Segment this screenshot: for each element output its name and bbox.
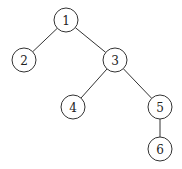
tree-diagram: 123456	[0, 0, 182, 169]
node-label: 4	[69, 101, 77, 115]
tree-node-3: 3	[103, 48, 127, 72]
tree-node-5: 5	[148, 95, 172, 119]
tree-node-1: 1	[54, 8, 78, 32]
node-label: 1	[62, 14, 70, 28]
node-label: 6	[156, 143, 164, 157]
node-label: 2	[20, 54, 28, 68]
edge-3-4	[81, 69, 107, 98]
node-label: 3	[111, 54, 119, 68]
tree-node-4: 4	[61, 95, 85, 119]
tree-node-6: 6	[148, 137, 172, 161]
edge-3-5	[123, 69, 151, 99]
edge-1-2	[33, 28, 58, 51]
node-label: 5	[156, 101, 164, 115]
edge-1-3	[75, 28, 105, 53]
tree-node-2: 2	[12, 48, 36, 72]
